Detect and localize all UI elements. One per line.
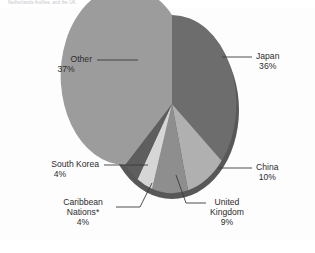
figure-page: Netherlands Antilles, and the UK.: [0, 0, 315, 253]
pie-label-other-name: Other: [40, 54, 92, 64]
pie-label-china-percent: 10%: [256, 172, 278, 182]
pie-label-china: China 10%: [256, 162, 278, 182]
pie-label-uk-name-line1: United: [210, 197, 244, 207]
pie-label-south-korea-name: South Korea: [21, 159, 99, 169]
pie-label-caribbean-name-line2: Nations*: [53, 207, 113, 217]
pie-label-japan-percent: 36%: [256, 61, 279, 71]
pie-label-other: Other 37%: [40, 54, 92, 74]
pie-label-south-korea: South Korea 4%: [21, 159, 99, 179]
pie-label-caribbean-percent: 4%: [53, 217, 113, 227]
pie-label-united-kingdom: United Kingdom 9%: [210, 197, 244, 228]
pie-label-uk-percent: 9%: [210, 217, 244, 227]
pie-label-japan-name: Japan: [256, 51, 279, 61]
pie-label-caribbean-name-line1: Caribbean: [53, 197, 113, 207]
pie-label-other-percent: 37%: [40, 64, 92, 74]
pie-label-japan: Japan 36%: [256, 51, 279, 71]
pie-label-caribbean-nations: Caribbean Nations* 4%: [53, 197, 113, 228]
pie-label-south-korea-percent: 4%: [21, 169, 99, 179]
pie-chart-svg: [0, 0, 315, 253]
pie-label-uk-name-line2: Kingdom: [210, 207, 244, 217]
pie-chart: Japan 36% China 10% United Kingdom 9% Ca…: [0, 0, 315, 253]
pie-label-china-name: China: [256, 162, 278, 172]
